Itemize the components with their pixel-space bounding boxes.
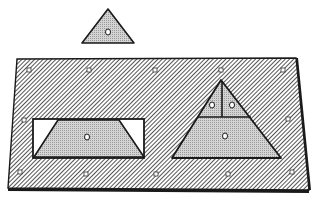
knob-icon	[223, 133, 228, 139]
puzzle-board-illustration	[0, 0, 321, 206]
trapezoid-inset	[33, 119, 144, 158]
board	[8, 58, 311, 193]
knob-icon	[230, 102, 235, 108]
knob-icon	[210, 102, 215, 108]
knob-icon	[85, 134, 90, 140]
knob-icon	[106, 29, 111, 35]
loose-triangle-piece	[82, 9, 134, 43]
